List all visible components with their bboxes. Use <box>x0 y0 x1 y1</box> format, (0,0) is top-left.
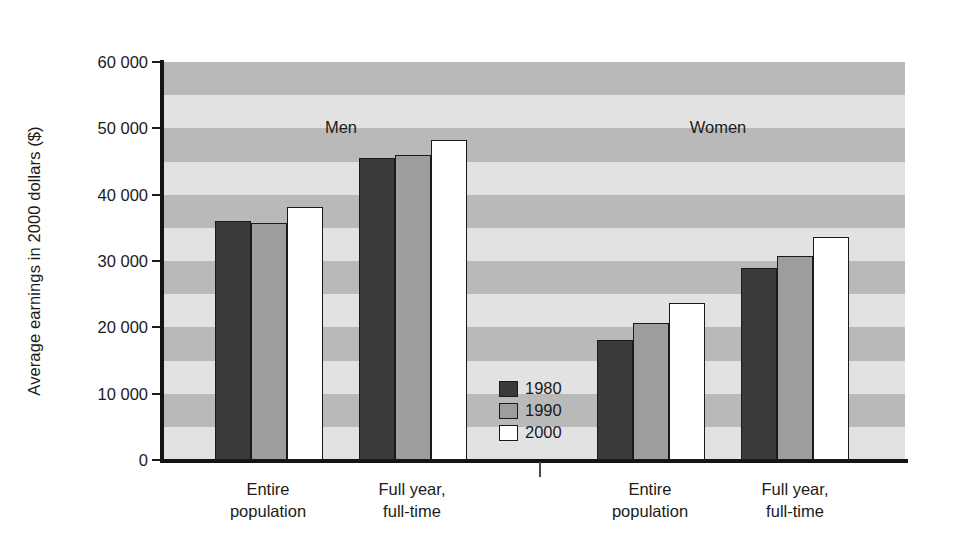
bar-men-fullyear-2000 <box>431 140 467 460</box>
legend-item-1980[interactable]: 1980 <box>499 378 562 399</box>
category-label-line1: Full year, <box>379 478 446 500</box>
bar-men-entire-1980 <box>215 221 251 460</box>
category-label-line2: full-time <box>379 500 446 522</box>
y-axis-tick-labels: 60 000 50 000 40 000 30 000 20 000 10 00… <box>58 0 148 551</box>
category-label-line2: population <box>612 500 688 522</box>
bar-women-entire-1980 <box>597 340 633 460</box>
category-label-line1: Full year, <box>762 478 829 500</box>
background-band <box>163 128 905 162</box>
group-separator-tick <box>539 462 541 477</box>
group-label-men: Men <box>325 118 357 137</box>
legend-label-2000: 2000 <box>525 424 562 441</box>
background-band <box>163 62 905 96</box>
y-axis-title: Average earnings in 2000 dollars ($) <box>20 62 48 460</box>
category-label-line2: full-time <box>762 500 829 522</box>
category-label-line2: population <box>230 500 306 522</box>
legend-item-2000[interactable]: 2000 <box>499 422 562 443</box>
y-tick-label-10000: 10 000 <box>58 385 148 404</box>
legend-item-1990[interactable]: 1990 <box>499 400 562 421</box>
legend: 1980 1990 2000 <box>499 378 562 443</box>
category-label-women-entire: Entire population <box>612 478 688 522</box>
bar-chart: Average earnings in 2000 dollars ($) 60 … <box>0 0 955 551</box>
legend-label-1980: 1980 <box>525 380 562 397</box>
category-label-line1: Entire <box>230 478 306 500</box>
category-label-men-entire: Entire population <box>230 478 306 522</box>
category-label-women-fullyear: Full year, full-time <box>762 478 829 522</box>
y-axis-line <box>160 60 164 462</box>
background-band <box>163 162 905 196</box>
bar-women-entire-1990 <box>633 323 669 460</box>
category-label-line1: Entire <box>612 478 688 500</box>
legend-label-1990: 1990 <box>525 402 562 419</box>
bar-women-fullyear-1980 <box>741 268 777 460</box>
y-tick-label-30000: 30 000 <box>58 252 148 271</box>
bar-men-entire-1990 <box>251 223 287 460</box>
bar-men-fullyear-1980 <box>359 158 395 460</box>
group-label-women: Women <box>690 118 747 137</box>
legend-swatch-1980-icon <box>499 381 518 397</box>
bar-women-fullyear-1990 <box>777 256 813 460</box>
y-tick-label-50000: 50 000 <box>58 119 148 138</box>
category-label-men-fullyear: Full year, full-time <box>379 478 446 522</box>
bar-men-fullyear-1990 <box>395 155 431 460</box>
y-tick-label-20000: 20 000 <box>58 318 148 337</box>
legend-swatch-1990-icon <box>499 403 518 419</box>
background-band <box>163 95 905 129</box>
legend-swatch-2000-icon <box>499 425 518 441</box>
y-tick-label-40000: 40 000 <box>58 186 148 205</box>
bar-men-entire-2000 <box>287 207 323 460</box>
y-tick-label-0: 0 <box>58 451 148 470</box>
bar-women-fullyear-2000 <box>813 237 849 460</box>
y-tick-label-60000: 60 000 <box>58 53 148 72</box>
bar-women-entire-2000 <box>669 303 705 460</box>
